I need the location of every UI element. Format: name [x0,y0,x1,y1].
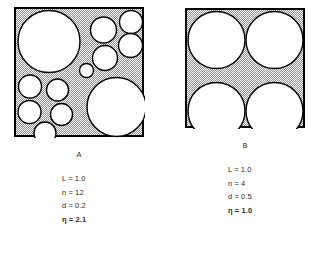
panel-a-caption: A [39,150,119,159]
packed-circle [91,17,117,43]
param-a-eta: η = 2.1 [62,213,86,227]
packed-circle [80,64,94,78]
param-b-diameter: d = 0.5 [228,190,252,204]
param-b-count: n = 4 [228,177,252,191]
packing-diagram-b [184,7,306,129]
packed-circle [120,11,143,34]
packed-circle [18,101,41,124]
panel-b [184,7,306,129]
packed-circle [93,46,118,71]
panel-b-parameters: L = 1.0 n = 4 d = 0.5 η = 1.0 [228,163,252,217]
param-b-eta: η = 1.0 [228,204,252,218]
packed-circle [19,75,42,98]
param-a-length: L = 1.0 [62,172,86,186]
packed-circle [47,79,69,101]
param-a-diameter: d = 0.2 [62,199,86,213]
panel-a [13,6,145,138]
packed-circle [87,78,145,137]
param-b-length: L = 1.0 [228,163,252,177]
packed-circle [18,11,80,73]
packed-circle [51,104,73,126]
panel-b-caption: B [205,141,285,150]
packed-circle [188,12,245,69]
packed-circle [246,12,303,69]
packed-circle [119,34,143,58]
packed-circle [34,122,56,138]
param-a-count: n = 12 [62,186,86,200]
panel-a-parameters: L = 1.0 n = 12 d = 0.2 η = 2.1 [62,172,86,226]
packing-diagram-a [13,6,145,138]
packing-figure: A L = 1.0 n = 12 d = 0.2 η = 2.1 B L = 1… [0,0,331,255]
